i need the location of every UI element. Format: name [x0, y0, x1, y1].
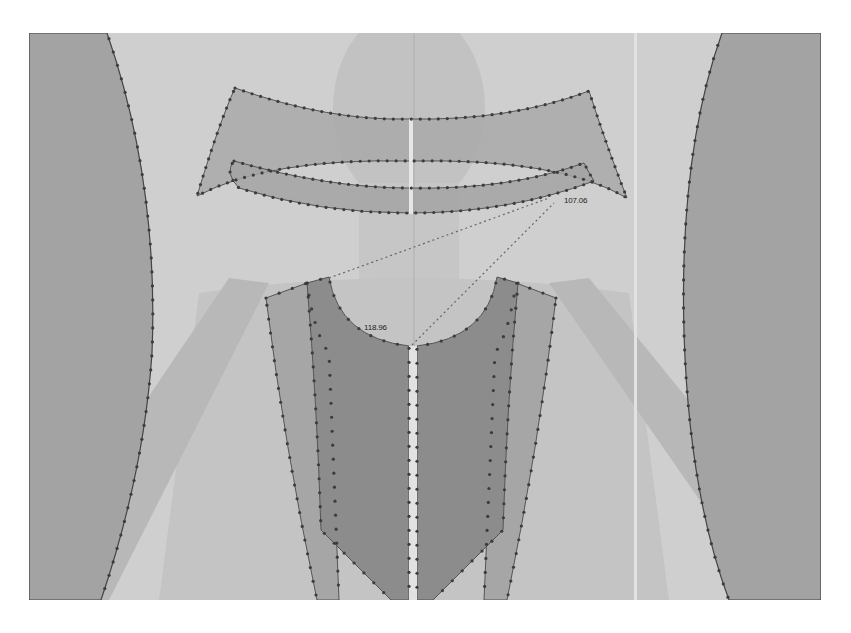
seam-point[interactable] — [199, 183, 202, 186]
seam-point[interactable] — [233, 86, 236, 89]
seam-point[interactable] — [278, 168, 281, 171]
seam-point[interactable] — [338, 307, 341, 310]
seam-point[interactable] — [415, 418, 418, 421]
seam-point[interactable] — [487, 487, 490, 490]
seam-point[interactable] — [510, 362, 513, 365]
seam-point[interactable] — [294, 104, 297, 107]
seam-point[interactable] — [415, 586, 418, 589]
seam-point[interactable] — [565, 189, 568, 192]
seam-point[interactable] — [222, 115, 225, 118]
seam-point[interactable] — [500, 181, 503, 184]
seam-point[interactable] — [145, 201, 148, 204]
seam-point[interactable] — [415, 376, 418, 379]
seam-point[interactable] — [486, 515, 489, 518]
seam-point[interactable] — [294, 174, 297, 177]
seam-point[interactable] — [407, 417, 410, 420]
seam-point[interactable] — [484, 571, 487, 574]
seam-point[interactable] — [318, 491, 321, 494]
seam-point[interactable] — [316, 204, 319, 207]
seam-point[interactable] — [360, 210, 363, 213]
seam-point[interactable] — [491, 183, 494, 186]
seam-point[interactable] — [331, 430, 334, 433]
seam-point[interactable] — [312, 365, 315, 368]
seam-point[interactable] — [132, 479, 135, 482]
seam-point[interactable] — [548, 194, 551, 197]
seam-point[interactable] — [526, 177, 529, 180]
seam-point[interactable] — [705, 84, 708, 87]
seam-point[interactable] — [534, 442, 537, 445]
seam-point[interactable] — [461, 569, 464, 572]
seam-point[interactable] — [320, 179, 323, 182]
seam-point[interactable] — [437, 117, 440, 120]
seam-point[interactable] — [521, 200, 524, 203]
seam-point[interactable] — [726, 596, 729, 599]
seam-point[interactable] — [459, 209, 462, 212]
seam-point[interactable] — [716, 44, 719, 47]
seam-point[interactable] — [347, 318, 350, 321]
seam-point[interactable] — [511, 348, 514, 351]
seam-point[interactable] — [333, 500, 336, 503]
seam-point[interactable] — [413, 159, 416, 162]
seam-point[interactable] — [207, 157, 210, 160]
3d-viewport[interactable]: 107.06 118.96 — [29, 33, 821, 600]
seam-point[interactable] — [682, 306, 685, 309]
seam-point[interactable] — [505, 432, 508, 435]
seam-point[interactable] — [259, 95, 262, 98]
seam-point[interactable] — [312, 580, 315, 583]
seam-point[interactable] — [368, 159, 371, 162]
seam-point[interactable] — [141, 173, 144, 176]
seam-point[interactable] — [213, 140, 216, 143]
seam-point[interactable] — [517, 179, 520, 182]
seam-point[interactable] — [554, 303, 557, 306]
seam-point[interactable] — [693, 460, 696, 463]
seam-point[interactable] — [423, 211, 426, 214]
seam-point[interactable] — [509, 579, 512, 582]
seam-point[interactable] — [556, 171, 559, 174]
seam-point[interactable] — [695, 474, 698, 477]
seam-point[interactable] — [269, 331, 272, 334]
seam-point[interactable] — [293, 483, 296, 486]
seam-point[interactable] — [283, 428, 286, 431]
seam-point[interactable] — [252, 173, 255, 176]
seam-point[interactable] — [682, 334, 685, 337]
seam-point[interactable] — [453, 335, 456, 338]
seam-point[interactable] — [415, 502, 418, 505]
seam-point[interactable] — [308, 309, 311, 312]
seam-point[interactable] — [127, 104, 130, 107]
seam-point[interactable] — [486, 206, 489, 209]
seam-point[interactable] — [306, 552, 309, 555]
seam-point[interactable] — [446, 186, 449, 189]
seam-point[interactable] — [210, 149, 213, 152]
seam-point[interactable] — [318, 334, 321, 337]
seam-point[interactable] — [543, 386, 546, 389]
seam-point[interactable] — [414, 211, 417, 214]
seam-point[interactable] — [607, 187, 610, 190]
seam-point[interactable] — [700, 501, 703, 504]
seam-point[interactable] — [490, 417, 493, 420]
seam-point[interactable] — [120, 77, 123, 80]
seam-point[interactable] — [544, 173, 547, 176]
seam-point[interactable] — [333, 207, 336, 210]
seam-point[interactable] — [279, 401, 282, 404]
seam-point[interactable] — [260, 171, 263, 174]
seam-point[interactable] — [333, 486, 336, 489]
seam-point[interactable] — [286, 442, 289, 445]
seam-point[interactable] — [228, 170, 231, 173]
seam-point[interactable] — [144, 410, 147, 413]
seam-point[interactable] — [216, 132, 219, 135]
seam-point[interactable] — [232, 90, 235, 93]
seam-point[interactable] — [396, 211, 399, 214]
seam-point[interactable] — [502, 335, 505, 338]
seam-point[interactable] — [503, 474, 506, 477]
seam-point[interactable] — [554, 296, 557, 299]
seam-point[interactable] — [415, 530, 418, 533]
seam-point[interactable] — [305, 164, 308, 167]
seam-point[interactable] — [387, 211, 390, 214]
seam-point[interactable] — [437, 186, 440, 189]
seam-point[interactable] — [502, 163, 505, 166]
seam-point[interactable] — [146, 396, 149, 399]
seam-point[interactable] — [545, 372, 548, 375]
seam-point[interactable] — [138, 451, 141, 454]
seam-point[interactable] — [407, 571, 410, 574]
seam-point[interactable] — [541, 291, 544, 294]
